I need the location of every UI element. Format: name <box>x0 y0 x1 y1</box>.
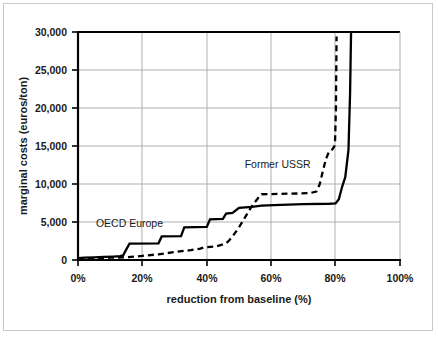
marginal-abatement-cost-chart: 30,000 25,000 20,000 15,000 10,000 5,000… <box>0 0 438 337</box>
x-axis-tick-labels: 0% 20% 40% 60% 80% 100% <box>70 272 414 284</box>
x-tick-label: 0% <box>70 272 86 284</box>
series-annotation-former-ussr: Former USSR <box>245 158 311 170</box>
y-tick-label: 30,000 <box>35 26 67 38</box>
y-axis-tick-labels: 30,000 25,000 20,000 15,000 10,000 5,000… <box>35 26 67 266</box>
x-tick-label: 60% <box>260 272 282 284</box>
y-tick-label: 0 <box>61 254 67 266</box>
y-tick-label: 25,000 <box>35 64 67 76</box>
x-tick-label: 20% <box>131 272 153 284</box>
chart-page: 30,000 25,000 20,000 15,000 10,000 5,000… <box>0 0 438 337</box>
y-tick-label: 20,000 <box>35 102 67 114</box>
x-tick-label: 40% <box>196 272 218 284</box>
y-tick-label: 10,000 <box>35 178 67 190</box>
series-annotation-oecd-europe: OECD Europe <box>96 217 163 229</box>
y-tick-label: 15,000 <box>35 140 67 152</box>
y-tick-label: 5,000 <box>41 216 67 228</box>
x-tick-label: 80% <box>324 272 346 284</box>
y-axis-title: marginal costs (euros/ton) <box>17 77 29 215</box>
x-axis-title: reduction from baseline (%) <box>167 293 312 305</box>
x-tick-label: 100% <box>387 272 415 284</box>
